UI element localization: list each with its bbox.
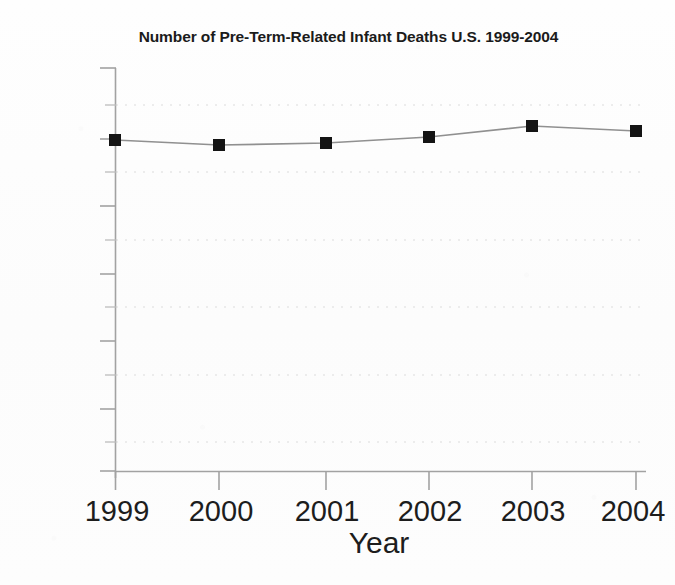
x-tick-label-2003: 2003: [501, 497, 566, 526]
x-tick-label-2000: 2000: [189, 497, 254, 526]
x-axis-tick-labels: 1999 2000 2001 2002 2003 2004: [0, 0, 675, 585]
x-axis-title: Year: [104, 528, 654, 558]
x-tick-label-2002: 2002: [398, 497, 463, 526]
chart-page: Number of Pre-Term-Related Infant Deaths…: [0, 0, 675, 585]
x-tick-label-1999: 1999: [85, 497, 150, 526]
x-tick-label-2001: 2001: [295, 497, 360, 526]
x-tick-label-2004: 2004: [601, 497, 666, 526]
